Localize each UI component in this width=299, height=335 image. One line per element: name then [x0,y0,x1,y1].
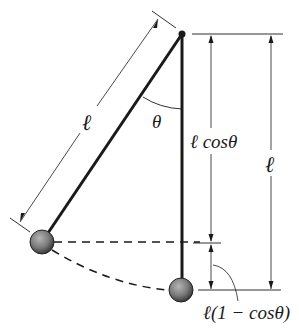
slanted-dim-tick-bottom [10,218,30,232]
label-length-slanted: ℓ [82,110,92,135]
slanted-dim-line-upper [97,19,158,106]
arrowhead-icon [153,19,158,28]
arrowhead-icon [209,244,214,252]
label-angle: θ [152,111,161,132]
arrowhead-icon [209,35,214,43]
rise-label-leader [213,265,238,301]
arrowhead-icon [209,281,214,289]
arrowhead-icon [20,213,25,222]
bob-rest [169,278,193,302]
arrowhead-icon [209,234,214,242]
arrowhead-icon [269,281,274,289]
label-length-vertical: ℓ [265,152,275,177]
angle-arc [143,97,182,109]
pivot-point [179,31,186,38]
bob-displaced [30,230,54,254]
pendulum-rod-displaced [48,34,182,233]
label-vertical-component: ℓ cosθ [190,131,237,152]
arrowhead-icon [269,35,274,43]
dashed-swing-arc [52,250,168,290]
pendulum-diagram: ℓ θ ℓ cosθ ℓ ℓ(1 − cosθ) [0,0,299,335]
slanted-dim-line-lower [20,133,80,222]
label-height-rise: ℓ(1 − cosθ) [203,302,290,324]
